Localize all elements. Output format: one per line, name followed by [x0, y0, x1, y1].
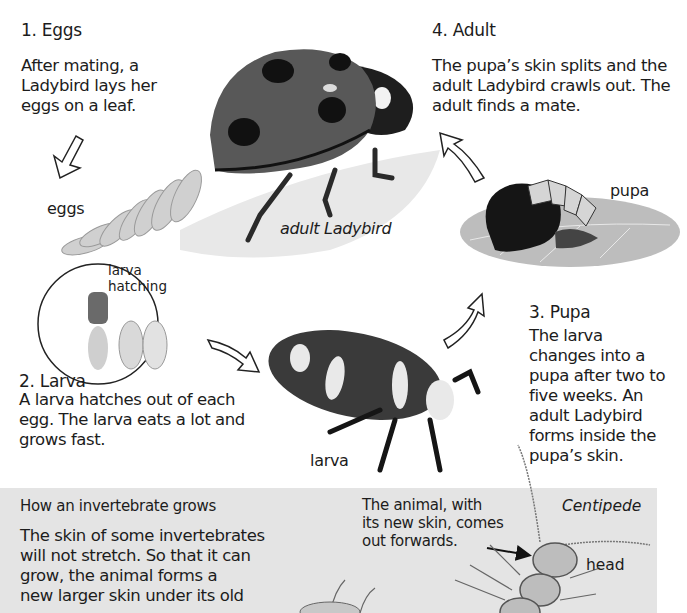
- spot: [262, 59, 294, 83]
- eggs-label: eggs: [47, 200, 84, 218]
- pupa-description: The larva changes into a pupa after two …: [529, 326, 665, 466]
- larva-heading: 2. Larva: [19, 371, 86, 391]
- larva-hatching-label: larva hatching: [108, 262, 167, 294]
- inset-heading: How an invertebrate grows: [20, 497, 216, 515]
- larva-label: larva: [310, 452, 349, 470]
- arrow-icon: [54, 136, 83, 178]
- inset-callout: The animal, with its new skin, comes out…: [362, 496, 504, 550]
- head-label: head: [586, 556, 625, 574]
- adult-ladybird-label: adult Ladybird: [280, 220, 391, 238]
- pupa-heading: 3. Pupa: [529, 302, 590, 322]
- centipede-label: Centipede: [562, 497, 641, 515]
- inset-description: The skin of some invertebrates will not …: [20, 526, 265, 606]
- larva-description: A larva hatches out of each egg. The lar…: [19, 390, 245, 450]
- pupa-label: pupa: [610, 182, 649, 200]
